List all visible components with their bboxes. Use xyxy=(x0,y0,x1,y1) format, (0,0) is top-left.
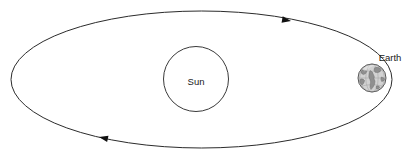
orbit-arrow-top-icon xyxy=(282,16,292,24)
earth-globe-icon xyxy=(358,64,386,92)
orbit-diagram: Sun xyxy=(0,0,413,159)
sun-label: Sun xyxy=(188,76,205,87)
diagram-canvas: Sun xyxy=(0,0,413,159)
earth-label: Earth xyxy=(379,52,402,63)
